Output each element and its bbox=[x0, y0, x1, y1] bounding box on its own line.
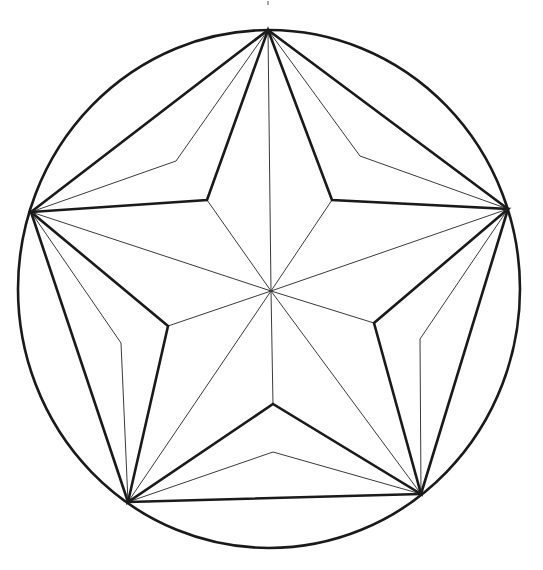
radial-to-outer-point bbox=[271, 209, 508, 291]
radial-to-inner-point bbox=[271, 291, 273, 404]
pentagon-chord bbox=[128, 494, 421, 502]
radial-to-inner-point bbox=[271, 291, 374, 323]
kinked-construction-lines bbox=[31, 30, 508, 502]
pentagon-chord bbox=[31, 30, 268, 212]
radial-to-inner-point bbox=[271, 200, 332, 291]
pentagon-chord bbox=[268, 30, 508, 209]
radial-to-outer-point bbox=[128, 291, 271, 502]
star-diagram bbox=[0, 0, 543, 570]
star-polygon bbox=[31, 30, 508, 502]
radial-to-outer-point bbox=[271, 291, 421, 494]
radial-to-inner-point bbox=[207, 200, 271, 291]
star-outline bbox=[31, 30, 508, 502]
radial-to-outer-point bbox=[268, 30, 271, 291]
pentagon-chords bbox=[31, 30, 508, 502]
radial-to-outer-point bbox=[31, 212, 271, 291]
center-radial-lines bbox=[31, 30, 508, 502]
radial-to-inner-point bbox=[168, 291, 271, 326]
